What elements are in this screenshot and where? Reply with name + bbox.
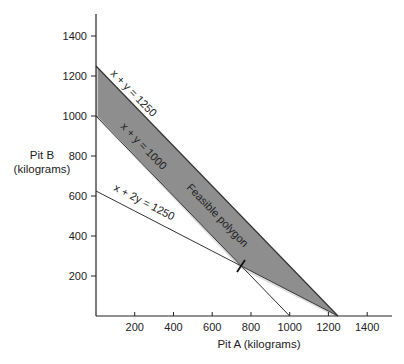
- y-tick-label: 800: [69, 150, 87, 162]
- y-tick-label: 1400: [63, 30, 87, 42]
- x-tick-label: 400: [164, 321, 182, 333]
- y-tick-label: 1000: [63, 110, 87, 122]
- y-axis-title-line2: (kilograms): [14, 163, 71, 175]
- line-x-plus-y-1000: [96, 116, 290, 316]
- x-tick-label: 800: [242, 321, 260, 333]
- feasible-region-chart: 200 400 600 800 1000 1200 1400 200 400 6…: [0, 0, 404, 364]
- x-tick-label: 200: [126, 321, 144, 333]
- y-axis-title-line1: Pit B: [30, 149, 55, 161]
- x-tick-label: 1400: [355, 321, 379, 333]
- y-tick-label: 200: [69, 270, 87, 282]
- x-axis-title: Pit A (kilograms): [217, 338, 300, 350]
- y-tick-label: 600: [69, 190, 87, 202]
- y-tick-label: 1200: [63, 70, 87, 82]
- y-tick-labels: 200 400 600 800 1000 1200 1400: [63, 30, 87, 282]
- y-axis-title-text: Pit B: [30, 149, 55, 161]
- y-ticks: [91, 36, 96, 276]
- x-tick-label: 1200: [316, 321, 340, 333]
- x-tick-label: 1000: [277, 321, 301, 333]
- y-tick-label: 400: [69, 230, 87, 242]
- x-tick-label: 600: [203, 321, 221, 333]
- x-tick-labels: 200 400 600 800 1000 1200 1400: [126, 321, 380, 333]
